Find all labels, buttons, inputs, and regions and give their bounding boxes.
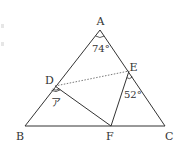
vertex-label-f: F <box>106 130 114 143</box>
angle-label-d: ア <box>51 97 61 108</box>
angle-label-e: 52° <box>124 89 142 100</box>
vertex-label-c: C <box>165 130 173 143</box>
segment-ca <box>100 30 165 126</box>
angle-label-a: 74° <box>92 43 110 54</box>
vertex-label-b: B <box>16 130 24 143</box>
segment-df <box>55 86 111 126</box>
vertex-label-d: D <box>45 74 54 87</box>
angle-arc-a <box>95 36 104 38</box>
geometry-figure: A B C D E F 74° 52° ア <box>0 0 181 147</box>
angle-arc-e <box>127 77 133 79</box>
vertex-label-a: A <box>96 15 106 28</box>
vertex-label-e: E <box>130 61 138 74</box>
segment-ab <box>25 30 100 126</box>
